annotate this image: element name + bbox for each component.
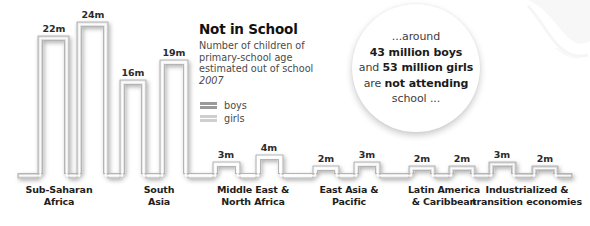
region-label-line-2: North Africa: [221, 196, 284, 207]
region-label: SouthAsia: [144, 184, 175, 207]
bar-value-label: 3m: [359, 149, 375, 160]
bar-value-label: 16m: [122, 67, 145, 78]
callout-line-3-prefix: and: [359, 61, 383, 74]
bar-value-label: 2m: [454, 153, 470, 164]
callout-line-1: ...around: [392, 30, 440, 43]
bar-value-label: 24m: [82, 9, 105, 20]
region-label-line-2: Africa: [44, 196, 75, 207]
info-year: 2007: [199, 75, 224, 86]
callout-line-4-prefix: are: [364, 77, 385, 90]
callout-text: ...around 43 million boys and 53 million…: [354, 29, 478, 107]
bar-value-label: 2m: [537, 153, 553, 164]
info-desc-line-2: primary-school age: [199, 52, 292, 63]
bar-value-label: 2m: [414, 153, 430, 164]
legend-item-boys: boys: [200, 99, 247, 112]
legend: boys girls: [200, 99, 247, 125]
region-label: Industrialized &transition economies: [472, 184, 582, 207]
bar-value-label: 4m: [261, 142, 277, 153]
region-label-line-1: South: [144, 184, 175, 195]
region-label-line-1: Latin America: [408, 184, 480, 195]
callout-line-3: 53 million girls: [383, 61, 474, 74]
bar-value-label: 19m: [163, 47, 186, 58]
bar-value-label: 3m: [218, 149, 234, 160]
callout-line-4: not attending: [385, 77, 469, 90]
legend-label-girls: girls: [224, 113, 245, 124]
callout-line-2: 43 million boys: [370, 46, 463, 59]
region-label-line-1: Industrialized &: [486, 184, 569, 195]
legend-item-girls: girls: [200, 112, 247, 125]
callout-bubble: ...around 43 million boys and 53 million…: [352, 4, 480, 132]
region-label-line-1: East Asia &: [319, 184, 378, 195]
page-title: Not in School: [199, 22, 319, 37]
region-label-line-2: Pacific: [332, 196, 366, 207]
info-block: Not in School Number of children of prim…: [199, 22, 319, 86]
region-label-line-2: transition economies: [472, 196, 582, 207]
callout-line-5: school ...: [392, 92, 440, 105]
bar-value-label: 22m: [43, 23, 66, 34]
infographic-canvas: 22m24m16m19m3m4m2m3m2m2m3m2m Sub-Saharan…: [0, 0, 590, 226]
info-desc-line-3: estimated out of school: [199, 63, 313, 74]
legend-swatch-girls-icon: [200, 115, 217, 123]
bar-value-label: 2m: [318, 153, 334, 164]
info-desc-line-1: Number of children of: [199, 40, 305, 51]
legend-swatch-boys-icon: [200, 102, 217, 110]
region-label: Sub-SaharanAfrica: [26, 184, 93, 207]
region-label-line-1: Middle East &: [217, 184, 289, 195]
region-label: East Asia &Pacific: [319, 184, 378, 207]
legend-label-boys: boys: [224, 100, 247, 111]
bar-value-label: 3m: [494, 149, 510, 160]
region-label: Middle East &North Africa: [217, 184, 289, 207]
region-label: Latin America& Caribbean: [408, 184, 480, 207]
region-label-line-1: Sub-Saharan: [26, 184, 93, 195]
region-label-line-2: Asia: [148, 196, 170, 207]
region-label-line-2: & Caribbean: [412, 196, 476, 207]
info-description: Number of children of primary-school age…: [199, 40, 319, 86]
